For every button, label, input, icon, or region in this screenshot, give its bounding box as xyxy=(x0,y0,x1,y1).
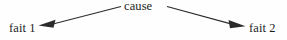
arrowhead-left-icon xyxy=(39,20,56,28)
edge-cause-to-fait-2 xyxy=(167,7,246,29)
node-label-cause: cause xyxy=(124,0,152,13)
node-label-fait-1: fait 1 xyxy=(9,22,36,35)
edge-cause-to-fait-1 xyxy=(39,7,122,28)
node-label-fait-2: fait 2 xyxy=(249,22,276,35)
edge-line-left xyxy=(52,7,121,25)
edge-line-right xyxy=(167,7,230,24)
diagram-canvas: cause fait 1 fait 2 xyxy=(0,0,287,40)
arrowhead-right-icon xyxy=(229,20,246,28)
